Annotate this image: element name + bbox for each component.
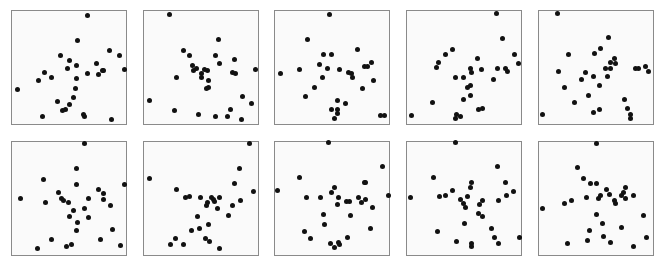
data-point (232, 57, 237, 62)
data-point (327, 12, 332, 17)
data-point (540, 112, 545, 117)
data-point (495, 66, 500, 71)
data-point (608, 60, 613, 65)
data-point (275, 188, 280, 193)
data-point (435, 229, 440, 234)
data-point (117, 53, 122, 58)
data-point (556, 69, 561, 74)
data-point (195, 214, 200, 219)
data-point (206, 78, 211, 83)
data-point (98, 237, 103, 242)
data-point (504, 193, 509, 198)
data-point (82, 206, 87, 211)
scatter-panel-r0-c3 (406, 10, 522, 125)
data-point (631, 244, 636, 249)
data-point (636, 66, 641, 71)
data-point (540, 206, 545, 211)
data-point (336, 195, 341, 200)
data-point (64, 244, 69, 249)
data-point (118, 243, 123, 248)
data-point (500, 36, 505, 41)
data-point (555, 11, 560, 16)
data-point (360, 86, 365, 91)
data-point (496, 241, 501, 246)
scatter-panel-r0-c1 (143, 10, 259, 125)
data-point (601, 234, 606, 239)
data-point (479, 67, 484, 72)
data-point (619, 225, 624, 230)
data-point (147, 98, 152, 103)
data-point (173, 236, 178, 241)
data-point (85, 13, 90, 18)
data-point (475, 56, 480, 61)
data-point (386, 193, 391, 198)
data-point (453, 116, 458, 121)
data-point (443, 193, 448, 198)
data-point (321, 52, 326, 57)
data-point (67, 214, 72, 219)
data-point (108, 203, 113, 208)
data-point (187, 194, 192, 199)
data-point (329, 107, 334, 112)
data-point (96, 187, 101, 192)
data-point (628, 116, 633, 121)
data-point (240, 94, 245, 99)
data-point (335, 202, 340, 207)
data-point (332, 185, 337, 190)
data-point (337, 67, 342, 72)
data-point (465, 85, 470, 90)
data-point (36, 78, 41, 83)
data-point (15, 87, 20, 92)
data-point (431, 175, 436, 180)
data-point (253, 67, 258, 72)
data-point (226, 213, 231, 218)
data-point (318, 195, 323, 200)
data-point (247, 141, 252, 146)
data-point (196, 112, 201, 117)
data-point (585, 238, 590, 243)
data-point (365, 64, 370, 69)
data-point (96, 72, 101, 77)
data-point (454, 239, 459, 244)
data-point (597, 107, 602, 112)
data-point (495, 164, 500, 169)
data-point (67, 58, 72, 63)
data-point (643, 64, 648, 69)
scatter-panel-r1-c0 (11, 141, 127, 256)
data-point (74, 182, 79, 187)
data-point (217, 61, 222, 66)
data-point (469, 180, 474, 185)
data-point (303, 94, 308, 99)
data-point (598, 46, 603, 51)
data-point (604, 187, 609, 192)
data-point (430, 100, 435, 105)
data-point (85, 71, 90, 76)
data-point (232, 181, 237, 186)
data-point (596, 196, 601, 201)
data-point (512, 52, 517, 57)
data-point (317, 62, 322, 67)
data-point (205, 68, 210, 73)
data-point (480, 214, 485, 219)
data-point (337, 242, 342, 247)
data-point (122, 67, 127, 72)
data-point (75, 38, 80, 43)
scatter-panel-r0-c0 (11, 10, 127, 125)
data-point (600, 221, 605, 226)
data-point (73, 86, 78, 91)
data-point (343, 101, 348, 106)
data-point (463, 205, 468, 210)
data-point (347, 199, 352, 204)
data-point (101, 68, 106, 73)
data-point (251, 189, 256, 194)
data-point (348, 213, 353, 218)
data-point (607, 192, 612, 197)
data-point (594, 141, 599, 146)
data-point (181, 242, 186, 247)
data-point (562, 201, 567, 206)
data-point (496, 198, 501, 203)
data-point (237, 166, 242, 171)
data-point (587, 228, 592, 233)
data-point (122, 182, 127, 187)
data-point (94, 61, 99, 66)
